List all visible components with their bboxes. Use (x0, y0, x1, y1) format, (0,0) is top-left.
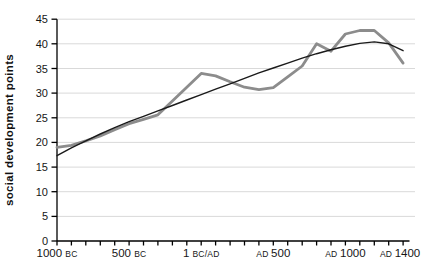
x-tick-labels: 1000 BC500 BC1 BC/ADAD 500AD 1000AD 1400 (37, 247, 421, 259)
y-tick-label: 20 (36, 136, 48, 148)
series-trend-line (57, 42, 403, 156)
y-tick-label: 45 (36, 13, 48, 25)
gridlines (57, 19, 415, 216)
chart-figure: 0510152025303540451000 BC500 BC1 BC/ADAD… (0, 0, 427, 271)
y-tick-label: 35 (36, 63, 48, 75)
x-tick-label: 1 BC/AD (183, 247, 220, 259)
y-tick-label: 30 (36, 87, 48, 99)
x-tick-label: AD 1000 (325, 247, 365, 259)
y-tick-label: 40 (36, 38, 48, 50)
x-tick-label: AD 1400 (380, 247, 420, 259)
y-tick-label: 5 (42, 210, 48, 222)
chart-canvas: 0510152025303540451000 BC500 BC1 BC/ADAD… (0, 0, 427, 271)
y-tick-label: 10 (36, 186, 48, 198)
x-tick-label: 500 BC (112, 247, 147, 259)
y-tick-label: 15 (36, 161, 48, 173)
y-tick-label: 0 (42, 235, 48, 247)
chart-plot-area: 0510152025303540451000 BC500 BC1 BC/ADAD… (36, 13, 421, 259)
y-axis-title: social development points (3, 54, 15, 206)
x-tick-label: AD 500 (256, 247, 290, 259)
y-tick-label: 25 (36, 112, 48, 124)
x-tick-label: 1000 BC (37, 247, 78, 259)
y-tick-labels: 051015202530354045 (36, 13, 48, 247)
